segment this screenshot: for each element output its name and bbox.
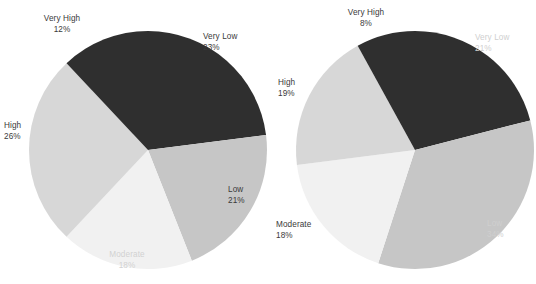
right-label-very-high: Very High 8% [330,8,402,30]
right-label-moderate: Moderate 18% [276,220,340,242]
left-label-low-name: Low [228,185,268,196]
right-label-moderate-value: 18% [276,231,340,242]
right-label-very-high-value: 8% [330,19,402,30]
right-pie-chart-panel: Very High 8% Very Low 21% Low 34% Modera… [268,0,536,284]
left-label-very-low-name: Very Low [203,32,263,43]
left-label-very-high-value: 12% [26,25,98,36]
left-pie-chart-panel: Very High 12% Very Low 23% Low 21% Moder… [0,0,268,284]
left-label-moderate-name: Moderate [96,250,158,261]
right-label-low-value: 34% [487,230,531,241]
right-label-low-name: Low [487,219,531,230]
left-label-low: Low 21% [228,185,268,207]
right-label-very-high-name: Very High [330,8,402,19]
left-label-moderate: Moderate 18% [96,250,158,272]
left-label-very-high: Very High 12% [26,14,98,36]
right-label-very-low-name: Very Low [475,33,536,44]
left-label-very-low-value: 23% [203,43,263,54]
right-label-very-low: Very Low 21% [475,33,536,55]
right-label-moderate-name: Moderate [276,220,340,231]
left-label-high-value: 26% [4,132,42,143]
left-label-high-name: High [4,121,42,132]
left-label-high: High 26% [4,121,42,143]
right-label-high: High 19% [278,78,316,100]
right-label-low: Low 34% [487,219,531,241]
left-label-moderate-value: 18% [96,261,158,272]
pie-charts-container: Very High 12% Very Low 23% Low 21% Moder… [0,0,536,284]
left-label-very-high-name: Very High [26,14,98,25]
left-label-low-value: 21% [228,196,268,207]
right-label-very-low-value: 21% [475,44,536,55]
left-label-very-low: Very Low 23% [203,32,263,54]
left-pie-slices [29,31,267,269]
right-label-high-name: High [278,78,316,89]
right-label-high-value: 19% [278,89,316,100]
